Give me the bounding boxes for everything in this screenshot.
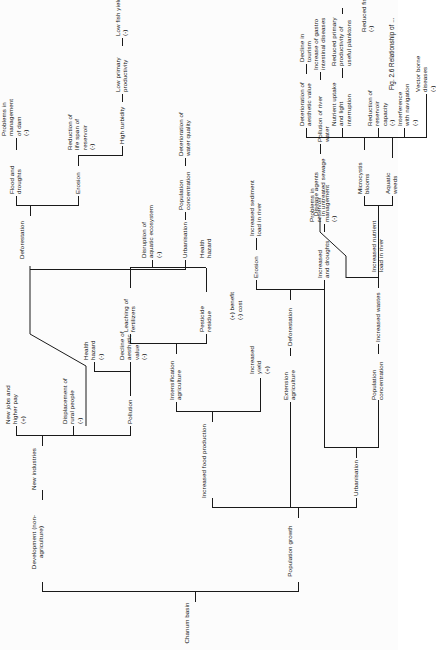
node-deterioration-aesthetic: Deterioration of aesthetic value <box>298 74 313 126</box>
edge-pollution-out <box>130 372 131 396</box>
edge-to-disruption-aquatic <box>152 260 153 268</box>
node-health-hazard-pesticide: Health hazard <box>198 220 213 258</box>
node-vector-borne-diseases: Vector borne diseases (-) <box>414 44 436 92</box>
node-development: Development (non-agriculture) <box>30 500 45 584</box>
edge-diagonal-to-deforestation <box>22 266 88 426</box>
edge-increased-food-spine <box>176 411 260 412</box>
edge-diagonal-disease-agents <box>318 218 348 278</box>
edge-to-floods-droughts <box>324 280 325 290</box>
node-nutrient-uptake: Nutrient uptake and light interruption <box>330 78 352 126</box>
edge-leaching-out <box>130 268 131 288</box>
node-deforestation-b: Deforestation <box>18 216 25 264</box>
edge-low-primary-out <box>122 38 123 46</box>
edge-wastes-spine <box>346 277 378 278</box>
edge-to-leaching <box>130 334 131 344</box>
legend-cost: (-) cost <box>236 292 244 320</box>
edge-flood-b-out <box>16 138 17 150</box>
edge-to-vector-borne <box>426 94 427 138</box>
edge-reduced-primary-out <box>342 8 343 14</box>
edge-to-microcystis <box>364 196 365 206</box>
edge-increased-wastes-out <box>378 278 379 288</box>
edge-to-reduction-reservoir <box>378 128 379 138</box>
node-increased-wastes: Increased wastes <box>374 288 381 342</box>
edge-erosion-a-out <box>256 238 257 250</box>
node-urbanisation-a: Urbanisation <box>352 458 359 496</box>
node-low-primary-productivity: Low primary productivity <box>114 46 129 92</box>
node-population-growth: Population growth <box>286 518 293 584</box>
edge-to-increased-food <box>212 498 213 508</box>
node-leaching-fertilizers: Leaching of fertilizers <box>122 288 137 332</box>
edge-to-health-hazard-poll <box>94 362 95 372</box>
node-urbanisation-b: Urbanisation <box>181 220 188 258</box>
edge-root-spine <box>42 591 298 592</box>
node-deterioration-water: Deterioration of water quality <box>177 108 192 156</box>
node-aquatic-weeds: Aquatic weeds <box>384 158 399 194</box>
edge-to-urbanisation-b <box>185 260 186 270</box>
edge-to-decline-aesthetic <box>130 362 131 372</box>
edge-pop-conc-a-out <box>378 344 379 354</box>
node-disease-agents: Disease agents in untreated sewage <box>312 154 327 216</box>
edge-population-growth-spine <box>212 507 356 508</box>
node-dam-problems: Problems in management of dam (-) <box>0 86 30 136</box>
node-low-fish-yield: Low fish yield (-) <box>114 0 129 36</box>
edge-to-increased-yield <box>260 378 261 412</box>
edge-to-population-growth <box>298 582 299 592</box>
figure-caption: Fig. 2.6 Relationship of ... <box>388 18 395 90</box>
node-erosion-a: Erosion <box>252 250 259 278</box>
node-deforestation-a: Deforestation <box>286 300 293 346</box>
node-sediment-load: Increased sediment load in river <box>248 180 263 236</box>
edge-increased-food-out <box>212 412 213 422</box>
node-increased-yield: Increased yield (+) <box>248 332 270 374</box>
edge-to-urbanisation-a <box>356 498 357 508</box>
edge-intensification-out <box>176 344 177 354</box>
edge-to-intensification <box>176 402 177 412</box>
edge-nutrient-load-out <box>378 206 379 278</box>
node-pop-concentration-b: Population concentration <box>177 166 192 210</box>
edge-aquatic-weeds-out <box>392 138 393 158</box>
node-root: Chanum basin <box>183 602 190 644</box>
edge-root-stem <box>195 592 196 602</box>
node-reduced-primary-productivity: Reduced primary productivity of useful p… <box>330 14 352 66</box>
edge-to-pollution <box>130 426 131 436</box>
edge-to-aquatic-weeds <box>392 196 393 206</box>
edge-erosion-b-spine <box>78 155 122 156</box>
node-pollution-river: Pollution of river water <box>316 80 331 142</box>
edge-microcystis-out <box>364 138 365 150</box>
edge-pesticide-out <box>206 268 207 292</box>
edge-disease-agents-out <box>320 144 321 154</box>
edge-to-deterioration-aesthetic <box>306 128 307 138</box>
edge-urbanisation-a-spine <box>324 447 378 448</box>
node-reduced-fish-yield: Reduced fish yield (-) <box>360 0 375 32</box>
node-reduction-lifespan: Reduction of life span of reservoir (-) <box>66 104 96 150</box>
edge-to-new-jobs <box>16 426 17 436</box>
edge-to-pesticide <box>206 334 207 344</box>
edge-intensification-spine <box>130 343 206 344</box>
node-disruption-aquatic: Disruption of aquatic ecosystem (-) <box>140 202 162 258</box>
legend: (+) benefit (-) cost <box>228 292 243 320</box>
edge-deforestation-b-out <box>30 206 31 216</box>
edge-deforestation-a-out <box>290 290 291 300</box>
node-increased-food: Increased food production <box>200 422 207 500</box>
edge-deforestation-b-spine <box>16 205 78 206</box>
edge-urbanisation-a-up <box>324 290 325 448</box>
edge-to-extension <box>290 402 291 508</box>
edge-weeds-fan-spine <box>364 205 392 206</box>
edge-to-erosion-b <box>78 196 79 206</box>
edge-to-nutrient-uptake <box>342 128 343 138</box>
node-intensification-agriculture: Intensification agriculture <box>168 354 183 400</box>
edge-nutrient-uptake-out <box>342 68 343 78</box>
edge-urbanisation-a-out <box>356 448 357 458</box>
node-pesticide-residue: Pesticide residue <box>198 292 213 332</box>
edge-to-interference-nav <box>404 128 405 138</box>
legend-benefit: (+) benefit <box>228 292 236 320</box>
node-pop-concentration-a: Population concentration <box>370 354 385 400</box>
node-pollution: Pollution <box>126 396 133 424</box>
edge-effects-spine <box>306 137 426 138</box>
node-new-industries: New industries <box>30 446 37 492</box>
edge-erosion-b-out <box>78 156 79 166</box>
edge-leach-pest-merge <box>130 267 206 268</box>
edge-pop-conc-b-out <box>185 158 186 166</box>
edge-extension-out <box>290 348 291 356</box>
node-extension-agriculture: Extension agriculture <box>282 356 297 400</box>
